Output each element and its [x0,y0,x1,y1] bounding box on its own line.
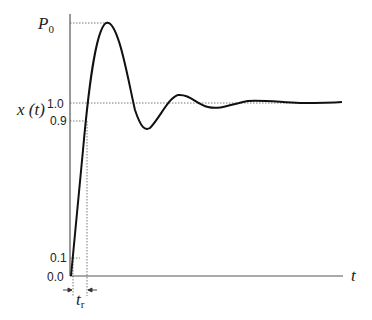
rise-time-label: tr [76,290,85,310]
tick-1-0: 1.0 [47,97,64,111]
tick-0-0: 0.0 [47,270,64,284]
step-response-diagram: P0 x (t) 1.0 0.9 0.1 0.0 t tr [0,0,372,320]
peak-label: P0 [37,14,54,35]
x-axis-label: t [351,266,357,285]
tick-0-1: 0.1 [50,251,67,265]
y-axis-label: x (t) [16,100,45,119]
tick-0-9: 0.9 [50,114,67,128]
reference-lines [70,23,312,296]
response-curve [71,23,342,276]
